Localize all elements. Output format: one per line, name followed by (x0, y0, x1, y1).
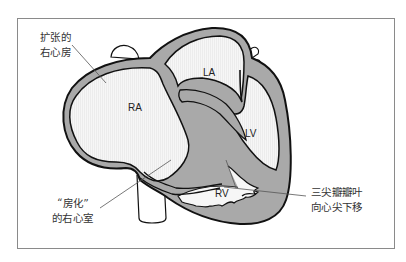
annotation-tricuspid-displaced: 三尖瓣瓣叶 向心尖下移 (311, 185, 363, 215)
annotation-line: 向心尖下移 (311, 200, 363, 215)
superior-vena-cava (111, 45, 139, 59)
annotation-line: 三尖瓣瓣叶 (311, 185, 363, 200)
annotation-atrialized-rv: “房化” 的右心室 (52, 196, 93, 226)
label-rv: RV (215, 188, 229, 199)
annotation-line: 扩张的 (40, 30, 71, 45)
label-la: LA (203, 67, 215, 78)
annotation-dilated-ra: 扩张的 右心房 (40, 30, 71, 60)
annotation-line: 右心房 (40, 45, 71, 60)
label-ra: RA (128, 102, 142, 113)
annotation-line: 的右心室 (52, 211, 93, 226)
label-lv: LV (245, 128, 257, 139)
annotation-line: “房化” (52, 196, 93, 211)
